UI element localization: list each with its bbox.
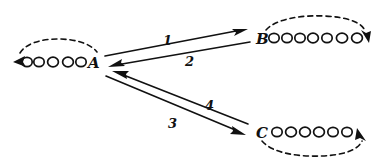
node-group-a: A [13,39,100,72]
node-label-b: B [255,30,269,48]
token-circles-c [272,127,352,137]
edge-group-1: 1 [105,29,248,56]
edge-arrowhead-4 [112,71,129,79]
node-group-b: B [255,16,371,48]
node-group-c: C [256,124,366,156]
edge-label-2: 2 [184,54,194,69]
token-circles-a [22,57,86,67]
edge-label-3: 3 [168,116,177,131]
edge-line-4 [126,76,248,124]
self-loop-arrowhead-c [355,128,366,141]
edge-arrowhead-3 [230,126,246,135]
node-label-c: C [256,124,268,142]
self-loop-arc-b [266,16,365,31]
edge-group-4: 4 [112,71,248,124]
edge-arrowhead-1 [232,29,248,36]
edge-arrowhead-2 [108,59,125,67]
edge-label-1: 1 [163,33,172,48]
edge-group-3: 3 [106,76,246,135]
self-loop-arc-a [20,39,97,53]
diagram-canvas: A B C [0,0,385,162]
edge-group-2: 2 [108,42,250,69]
edge-label-4: 4 [205,98,214,113]
node-label-a: A [86,54,100,72]
token-circles-b [269,33,363,43]
handdrawn-diagram: A B C [0,0,385,162]
self-loop-arc-c [262,141,362,156]
